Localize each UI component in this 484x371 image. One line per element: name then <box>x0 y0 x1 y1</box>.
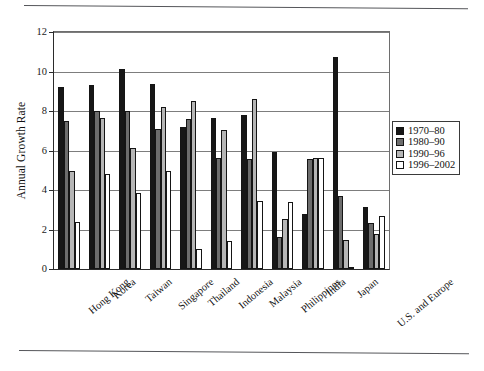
x-tick-label: Singapore <box>176 276 216 312</box>
legend-label: 1996–2002 <box>408 160 455 171</box>
bar-groups <box>54 32 389 269</box>
bar <box>343 240 348 269</box>
legend-label: 1990–96 <box>408 149 445 160</box>
bar-group <box>267 32 297 269</box>
bar <box>288 202 293 269</box>
bar-group <box>115 32 145 269</box>
legend-item: 1970–80 <box>396 125 455 137</box>
legend-swatch-icon <box>396 138 404 146</box>
legend-swatch-icon <box>396 127 404 135</box>
y-axis-title: Annual Growth Rate <box>13 31 29 270</box>
y-tick-label: 6 <box>42 145 47 156</box>
x-tick-label: Taiwan <box>143 276 174 304</box>
x-tick-label: Japan <box>355 276 380 300</box>
bar-group <box>237 32 267 269</box>
bar-group <box>359 32 389 269</box>
legend-label: 1970–80 <box>408 126 445 137</box>
legend-item: 1996–2002 <box>396 160 455 172</box>
bar <box>105 174 110 269</box>
bar-group <box>298 32 328 269</box>
bar <box>379 216 384 269</box>
bar <box>318 158 323 269</box>
x-tick-label: U.S. and Europe <box>396 276 456 329</box>
bar-group <box>176 32 206 269</box>
legend-item: 1980–90 <box>396 137 455 149</box>
plot-area: 024681012 <box>53 31 390 270</box>
bar-group <box>145 32 175 269</box>
legend-label: 1980–90 <box>408 137 445 148</box>
y-tick-label: 10 <box>37 66 48 77</box>
legend-swatch-icon <box>396 161 404 169</box>
bar-group <box>206 32 236 269</box>
bar-group <box>84 32 114 269</box>
bar <box>227 241 232 269</box>
bar-chart: Annual Growth Rate 024681012 Hong KongKo… <box>0 0 484 371</box>
y-tick-label: 4 <box>42 185 47 196</box>
bar <box>191 101 196 269</box>
scanned-page: Annual Growth Rate 024681012 Hong KongKo… <box>0 0 484 371</box>
bar <box>166 171 171 269</box>
y-tick-label: 12 <box>37 27 48 38</box>
y-tick-label: 0 <box>42 264 47 275</box>
bar <box>136 193 141 269</box>
bar <box>196 249 201 269</box>
legend-swatch-icon <box>396 150 404 158</box>
bar-group <box>54 32 84 269</box>
x-tick-label: Indonesia <box>237 276 275 311</box>
bar-group <box>328 32 358 269</box>
y-tick-label: 8 <box>42 106 47 117</box>
legend: 1970–801980–901990–961996–2002 <box>392 121 460 175</box>
x-tick-label: Korea <box>111 276 138 301</box>
bar <box>75 222 80 269</box>
bar <box>257 201 262 269</box>
bar <box>349 267 354 269</box>
y-tick-label: 2 <box>42 224 47 235</box>
y-tick-mark <box>49 269 54 270</box>
legend-item: 1990–96 <box>396 148 455 160</box>
